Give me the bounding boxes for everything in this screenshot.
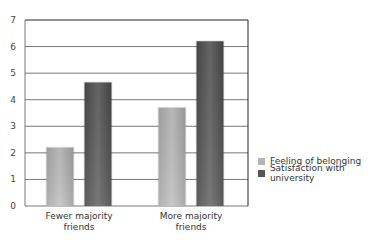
y-tick-label: 4	[10, 95, 16, 105]
legend: Feeling of belonging Satisfaction with u…	[258, 155, 390, 179]
y-tick-label: 2	[10, 148, 16, 158]
x-category-label: Fewer majority	[45, 211, 113, 221]
y-axis-ticks: 01234567	[10, 15, 16, 211]
y-tick-label: 7	[10, 15, 16, 25]
y-tick-label: 3	[10, 121, 16, 131]
legend-swatch-dark	[258, 170, 265, 177]
legend-item-satisfaction: Satisfaction with university	[258, 167, 390, 179]
legend-label: Satisfaction with university	[270, 163, 390, 183]
bars	[46, 40, 225, 206]
y-tick-label: 0	[10, 201, 16, 211]
y-tick-label: 6	[10, 42, 16, 52]
legend-swatch-light	[258, 158, 265, 165]
x-category-label: More majority	[160, 211, 223, 221]
x-category-label: friends	[175, 222, 206, 232]
y-tick-label: 1	[10, 174, 16, 184]
x-category-label: friends	[63, 222, 94, 232]
x-axis-labels: Fewer majorityfriendsMore majorityfriend…	[45, 211, 222, 232]
y-tick-label: 5	[10, 68, 16, 78]
bar-chart: 01234567 Fewer majorityfriendsMore major…	[0, 0, 390, 247]
